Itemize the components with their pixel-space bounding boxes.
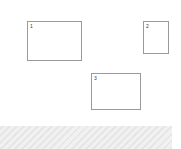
region-box-3[interactable]: 3	[91, 73, 141, 110]
region-label-2: 2	[146, 23, 149, 29]
region-box-2[interactable]: 2	[143, 21, 169, 54]
diagram-canvas: 1 2 3	[0, 0, 181, 149]
region-box-1[interactable]: 1	[27, 21, 82, 61]
region-label-3: 3	[94, 75, 97, 81]
region-label-1: 1	[30, 23, 33, 29]
striped-footer-band	[0, 126, 172, 149]
